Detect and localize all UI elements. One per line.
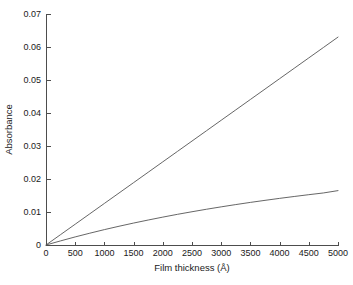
axis-tick-marks xyxy=(47,15,339,246)
series-line-saturating-absorbance xyxy=(46,191,338,245)
x-axis-label: Film thickness (Å) xyxy=(46,262,338,273)
series-line-linear-absorbance xyxy=(46,37,338,245)
data-series-group xyxy=(46,37,338,245)
axis-lines xyxy=(46,14,338,246)
